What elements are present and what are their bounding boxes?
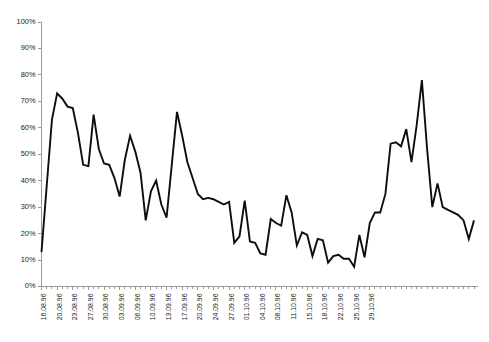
x-axis-tick-label: 06.09.96 xyxy=(134,293,141,320)
y-axis-tick-label: 80% xyxy=(21,70,36,79)
x-axis-tick-label: 22.10.96 xyxy=(337,293,344,320)
line-chart-figure: 0%10%20%30%40%50%60%70%80%90%100% 16.08.… xyxy=(0,0,489,342)
y-axis-tick-label: 20% xyxy=(21,229,36,238)
x-axis-tick-label: 11.10.96 xyxy=(290,293,297,319)
x-axis-tick-label: 13.09.96 xyxy=(165,293,172,320)
x-axis-tick-label: 03.09.96 xyxy=(118,293,125,320)
x-axis-group: 16.08.9620.08.9623.08.9627.08.9630.08.96… xyxy=(40,287,478,321)
x-axis-tick-label: 08.10.96 xyxy=(274,293,281,320)
x-axis-ticks xyxy=(42,287,475,291)
x-axis-tick-label: 23.08.96 xyxy=(71,293,78,320)
y-axis-tick-label: 100% xyxy=(17,17,36,26)
y-axis-tick-label: 40% xyxy=(21,176,36,185)
x-axis-tick-label: 17.09.96 xyxy=(181,293,188,320)
x-axis-tick-label: 29.10.96 xyxy=(368,293,375,320)
chart-canvas: 0%10%20%30%40%50%60%70%80%90%100% 16.08.… xyxy=(0,0,489,342)
x-axis-tick-label: 10.09.96 xyxy=(149,293,156,320)
x-axis-tick-label: 01.10.96 xyxy=(243,293,250,320)
y-axis-tick-label: 60% xyxy=(21,123,36,132)
y-axis-tick-labels: 0%10%20%30%40%50%60%70%80%90%100% xyxy=(17,17,36,291)
x-axis-tick-label: 15.10.96 xyxy=(306,293,313,320)
data-series-line xyxy=(42,80,475,266)
x-axis-tick-label: 04.10.96 xyxy=(259,293,266,320)
x-axis-tick-label: 20.08.96 xyxy=(56,293,63,320)
y-axis-tick-label: 70% xyxy=(21,96,36,105)
x-axis-tick-labels: 16.08.9620.08.9623.08.9627.08.9630.08.96… xyxy=(40,293,375,320)
x-axis-tick-label: 18.10.96 xyxy=(321,293,328,320)
x-axis-tick-label: 25.10.96 xyxy=(353,293,360,320)
y-axis-tick-label: 90% xyxy=(21,43,36,52)
y-axis-tick-label: 50% xyxy=(21,149,36,158)
x-axis-tick-label: 27.09.96 xyxy=(228,293,235,320)
x-axis-tick-label: 24.09.96 xyxy=(212,293,219,320)
y-axis-tick-label: 30% xyxy=(21,202,36,211)
x-axis-tick-label: 30.08.96 xyxy=(102,293,109,320)
y-axis-tick-label: 10% xyxy=(21,255,36,264)
x-axis-tick-label: 27.08.96 xyxy=(87,293,94,320)
y-axis-tick-label: 0% xyxy=(25,281,36,290)
y-axis-group: 0%10%20%30%40%50%60%70%80%90%100% xyxy=(17,17,42,291)
x-axis-tick-label: 16.08.96 xyxy=(40,293,47,320)
x-axis-tick-label: 20.09.96 xyxy=(196,293,203,320)
plot-area xyxy=(42,80,475,266)
